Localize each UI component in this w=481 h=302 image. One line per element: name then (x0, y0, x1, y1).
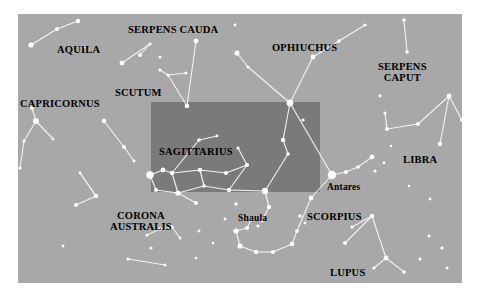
star-marker (164, 264, 167, 267)
constellation-label-corona-australis: CORONA AUSTRALIS (110, 211, 172, 233)
star-marker (55, 27, 59, 31)
star-marker (159, 69, 162, 72)
star-marker (126, 257, 129, 260)
constellation-line (104, 121, 124, 147)
star-marker (328, 171, 336, 179)
star-marker (33, 118, 39, 124)
constellation-label-scorpius: SCORPIUS (307, 212, 362, 223)
star-label-antares: Antares (327, 183, 360, 193)
constellation-label-ophiuchus: OPHIUCHUS (272, 43, 337, 54)
constellation-line (248, 67, 290, 103)
star-marker (287, 100, 294, 107)
star-marker (133, 160, 136, 163)
star-marker (236, 146, 239, 149)
star-marker (301, 118, 304, 121)
constellation-line (404, 20, 407, 52)
constellation-line (80, 173, 96, 196)
star-marker (344, 170, 348, 174)
constellation-line (76, 196, 96, 205)
star-marker (247, 66, 250, 69)
constellation-line (24, 121, 36, 141)
star-marker (298, 214, 302, 218)
star-marker (159, 56, 162, 59)
constellation-line (57, 21, 78, 29)
constellation-line (20, 141, 24, 168)
star-marker (416, 122, 420, 126)
constellation-line (273, 244, 292, 252)
constellation-line (387, 124, 418, 129)
star-marker (120, 61, 125, 66)
star-label-shaula: Shaula (238, 214, 267, 224)
star-marker (460, 118, 462, 122)
star-marker (179, 237, 182, 240)
star-marker (438, 142, 442, 146)
constellation-label-serpens-cauda: SERPENS CAUDA (128, 25, 218, 36)
star-chart-figure: AQUILASERPENS CAUDAOPHIUCHUSSERPENS CAPU… (0, 0, 481, 302)
star-marker (74, 203, 78, 207)
star-marker (254, 250, 258, 254)
constellation-line (128, 259, 165, 265)
star-marker (198, 168, 202, 172)
star-marker (197, 138, 201, 142)
constellation-label-aquila: AQUILA (57, 45, 100, 56)
star-marker (18, 166, 21, 169)
star-marker (234, 24, 237, 27)
constellation-line (339, 25, 365, 41)
star-marker (148, 42, 151, 45)
constellation-label-libra: LIBRA (403, 155, 437, 166)
star-marker (295, 229, 299, 233)
star-marker (385, 127, 389, 131)
constellation-line (372, 216, 386, 258)
star-marker (419, 258, 422, 261)
star-marker (62, 245, 65, 248)
star-marker (402, 270, 406, 274)
star-marker (363, 23, 366, 26)
star-marker (370, 214, 374, 218)
star-marker (146, 171, 154, 179)
constellation-line (168, 75, 187, 106)
star-marker (402, 18, 406, 22)
star-marker (146, 234, 149, 237)
star-marker (198, 230, 201, 233)
star-marker (390, 145, 393, 148)
star-marker (166, 73, 169, 76)
constellation-label-capricornus: CAPRICORNUS (20, 99, 100, 110)
constellation-line (36, 121, 53, 139)
star-marker (372, 266, 375, 269)
star-marker (256, 224, 259, 227)
star-marker (370, 155, 375, 160)
star-marker (185, 72, 188, 75)
constellation-line (31, 29, 57, 45)
star-marker (212, 242, 215, 245)
star-marker (262, 188, 268, 194)
constellation-line (386, 258, 404, 272)
star-marker (234, 50, 239, 55)
star-marker (170, 171, 174, 175)
star-marker (234, 202, 238, 206)
star-marker (408, 185, 411, 188)
star-marker (343, 241, 347, 245)
star-marker (440, 246, 443, 249)
star-marker (309, 196, 314, 201)
star-marker (429, 198, 432, 201)
star-marker (224, 171, 228, 175)
star-marker (350, 225, 353, 228)
star-marker (383, 162, 386, 165)
star-marker (428, 235, 431, 238)
star-marker (286, 152, 290, 156)
constellation-line (187, 41, 196, 106)
star-marker (271, 250, 275, 254)
constellation-label-serpens-caput: SERPENS CAPUT (378, 62, 427, 84)
star-marker (373, 169, 376, 172)
star-marker (154, 188, 158, 192)
constellation-label-lupus: LUPUS (330, 268, 365, 279)
star-marker (446, 267, 449, 270)
constellation-line (449, 96, 462, 120)
star-marker (23, 140, 26, 143)
constellation-label-scutum: SCUTUM (115, 88, 162, 99)
star-marker (194, 39, 199, 44)
constellation-line (290, 57, 313, 103)
star-marker (185, 104, 190, 109)
star-marker (161, 168, 166, 173)
star-marker (405, 50, 409, 54)
